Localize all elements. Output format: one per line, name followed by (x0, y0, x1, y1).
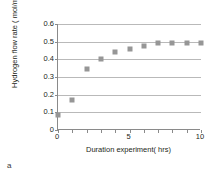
gridline (58, 24, 201, 25)
data-point (84, 66, 89, 71)
gridline (58, 112, 201, 113)
y-tick-label: 0.2 (44, 91, 54, 99)
x-axis-tick-labels: 0510 (57, 133, 200, 143)
gridline (58, 77, 201, 78)
figure: Hydrogen flow rate ( mol/m².s) 00.10.20.… (0, 0, 213, 175)
data-point (141, 43, 146, 48)
gridline (58, 59, 201, 60)
y-tick-mark (55, 59, 58, 60)
y-tick-mark (55, 24, 58, 25)
y-tick-label: 0.5 (44, 38, 54, 46)
gridline (58, 95, 201, 96)
data-point (113, 49, 118, 54)
x-tick-label: 0 (55, 133, 59, 141)
data-point (156, 40, 161, 45)
data-point (127, 47, 132, 52)
data-point (98, 56, 103, 61)
y-tick-mark (55, 77, 58, 78)
y-tick-mark (55, 95, 58, 96)
gridline (58, 42, 201, 43)
y-tick-label: 0.3 (44, 73, 54, 81)
figure-caption: a (7, 161, 11, 170)
y-tick-label: 0.1 (44, 108, 54, 116)
x-tick-label: 5 (126, 133, 130, 141)
y-tick-label: 0 (50, 126, 54, 134)
y-tick-label: 0.6 (44, 20, 54, 28)
y-tick-mark (55, 42, 58, 43)
y-axis-tick-labels: 00.10.20.30.40.50.6 (0, 24, 54, 130)
x-axis-title: Duration experiment( hrs) (57, 145, 200, 154)
x-tick-label: 10 (196, 133, 204, 141)
data-point (170, 40, 175, 45)
plot-area (57, 24, 200, 130)
data-point (70, 98, 75, 103)
data-point (56, 112, 61, 117)
y-tick-label: 0.4 (44, 55, 54, 63)
data-point (199, 40, 204, 45)
data-point (184, 40, 189, 45)
